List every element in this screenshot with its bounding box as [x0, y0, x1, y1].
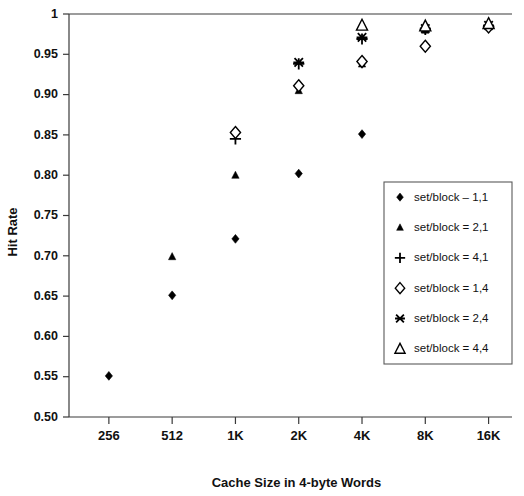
data-point-filled-triangle — [168, 253, 175, 260]
series-5 — [356, 18, 494, 31]
y-tick-label: 0.50 — [34, 410, 58, 424]
x-axis-title: Cache Size in 4-byte Words — [212, 475, 382, 490]
x-tick-label: 8K — [417, 428, 434, 443]
axis-titles: Cache Size in 4-byte WordsHit Rate — [5, 207, 381, 490]
y-axis-ticks: 0.500.550.600.650.700.750.800.850.900.95… — [34, 7, 69, 424]
x-tick-label: 4K — [354, 428, 371, 443]
series-4 — [293, 21, 494, 67]
x-tick-label: 512 — [161, 428, 183, 443]
cache-hit-rate-chart: 0.500.550.600.650.700.750.800.850.900.95… — [0, 0, 524, 496]
data-point-plus — [356, 33, 367, 44]
data-point-filled-diamond — [358, 130, 365, 139]
legend-box — [384, 182, 512, 364]
y-tick-label: 0.55 — [34, 369, 58, 383]
x-tick-label: 16K — [477, 428, 501, 443]
data-point-open-diamond — [357, 56, 367, 68]
chart-legend: set/block – 1,1set/block = 2,1set/block … — [384, 182, 512, 364]
series-2 — [230, 20, 494, 144]
legend-item-label: set/block = 2,1 — [414, 221, 488, 233]
y-tick-label: 0.90 — [34, 87, 58, 101]
data-point-filled-diamond — [232, 234, 239, 243]
chart-canvas: 0.500.550.600.650.700.750.800.850.900.95… — [0, 0, 524, 496]
x-tick-label: 2K — [290, 428, 307, 443]
x-tick-label: 256 — [98, 428, 120, 443]
y-tick-label: 0.65 — [34, 289, 58, 303]
y-tick-label: 1 — [51, 7, 58, 21]
data-point-filled-triangle — [232, 171, 239, 178]
data-point-open-triangle — [483, 18, 494, 29]
y-tick-label: 0.95 — [34, 47, 58, 61]
y-tick-label: 0.80 — [34, 168, 58, 182]
legend-item-label: set/block = 1,4 — [414, 282, 489, 294]
legend-item-label: set/block = 2,4 — [414, 312, 489, 324]
data-point-open-triangle — [356, 19, 367, 30]
data-point-open-diamond — [230, 126, 240, 138]
data-point-plus — [293, 58, 304, 69]
legend-item-label: set/block = 4,1 — [414, 251, 488, 263]
y-axis-title: Hit Rate — [5, 207, 20, 256]
data-point-filled-diamond — [295, 169, 302, 178]
x-tick-label: 1K — [227, 428, 244, 443]
data-point-filled-diamond — [105, 371, 112, 380]
legend-item-label: set/block – 1,1 — [414, 191, 488, 203]
y-tick-label: 0.60 — [34, 329, 58, 343]
data-point-open-diamond — [420, 40, 430, 52]
y-tick-label: 0.85 — [34, 128, 58, 142]
y-tick-label: 0.75 — [34, 208, 58, 222]
legend-item-label: set/block = 4,4 — [414, 342, 489, 354]
y-tick-label: 0.70 — [34, 249, 58, 263]
x-axis-ticks: 2565121K2K4K8K16K — [98, 417, 501, 443]
data-point-filled-diamond — [169, 291, 176, 300]
data-point-open-diamond — [294, 80, 304, 92]
